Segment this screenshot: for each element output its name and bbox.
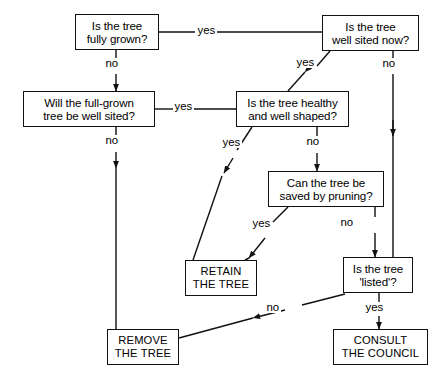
node-is-the-tree-well-sited-now[interactable]: Is the tree well sited now?	[322, 15, 419, 51]
connector-healthy-yes-arrow	[224, 158, 233, 173]
edge-label-prune-no: no	[339, 217, 355, 228]
node-line-1: CONSULT	[354, 334, 408, 347]
node-line-1: Is the tree	[345, 20, 395, 33]
edge-label-grown-yes: yes	[196, 25, 217, 36]
node-is-the-tree-fully-grown[interactable]: Is the tree fully grown?	[75, 14, 159, 50]
edge-label-sited-yes: yes	[295, 57, 316, 68]
node-line-2: and well shaped?	[248, 109, 337, 122]
node-line-2: 'listed'?	[359, 275, 396, 288]
edge-label-sited-no: no	[381, 58, 397, 69]
node-is-the-tree-healthy-and-well-shaped[interactable]: Is the tree healthy and well shaped?	[236, 91, 349, 127]
node-consult-the-council[interactable]: CONSULT THE COUNCIL	[333, 329, 428, 365]
connector-sited-yes	[317, 51, 330, 66]
node-line-1: RETAIN	[200, 265, 241, 278]
edge-label-listed-yes: yes	[364, 302, 385, 313]
node-remove-the-tree[interactable]: REMOVE THE TREE	[107, 329, 179, 365]
edge-label-prune-yes: yes	[251, 218, 272, 229]
node-line-2: saved by pruning?	[279, 189, 372, 202]
node-line-2: well sited now?	[332, 33, 409, 46]
node-line-1: Can the tree be	[287, 176, 365, 189]
node-line-1: Is the tree	[92, 19, 142, 32]
connector-listed-no	[302, 294, 345, 305]
node-will-the-full-grown-tree-be-well-sited[interactable]: Will the full-grown tree be well sited?	[23, 91, 155, 127]
edge-label-grown-no: no	[104, 58, 120, 69]
node-line-2: tree be well sited?	[43, 109, 135, 122]
edge-label-listed-no: no	[265, 302, 281, 313]
node-can-the-tree-be-saved-by-pruning[interactable]: Can the tree be saved by pruning?	[268, 171, 384, 207]
node-line-1: Is the tree healthy	[247, 96, 337, 109]
node-line-1: Is the tree	[353, 262, 403, 275]
edge-label-fgws-yes: yes	[173, 101, 194, 112]
connector-healthy-yes-tail	[193, 176, 222, 260]
node-line-2: THE TREE	[115, 347, 171, 360]
node-retain-the-tree[interactable]: RETAIN THE TREE	[185, 260, 257, 296]
connector-prune-yes	[273, 207, 288, 222]
edge-label-healthy-no: no	[305, 136, 321, 147]
flowchart-canvas: Is the tree fully grown? Is the tree wel…	[0, 0, 446, 384]
connector-prune-yes-arrow	[249, 238, 265, 258]
edge-label-healthy-yes: yes	[221, 137, 242, 148]
node-is-the-tree-listed[interactable]: Is the tree 'listed'?	[343, 257, 413, 293]
node-line-2: fully grown?	[87, 32, 148, 45]
node-line-2: THE TREE	[193, 278, 249, 291]
node-line-2: THE COUNCIL	[342, 347, 419, 360]
connector-listed-no-arrow	[179, 318, 253, 338]
node-line-1: REMOVE	[118, 334, 167, 347]
edge-label-fgws-no: no	[104, 135, 120, 146]
connector-sited-yes-arrow	[288, 72, 305, 91]
node-line-1: Will the full-grown	[44, 96, 134, 109]
